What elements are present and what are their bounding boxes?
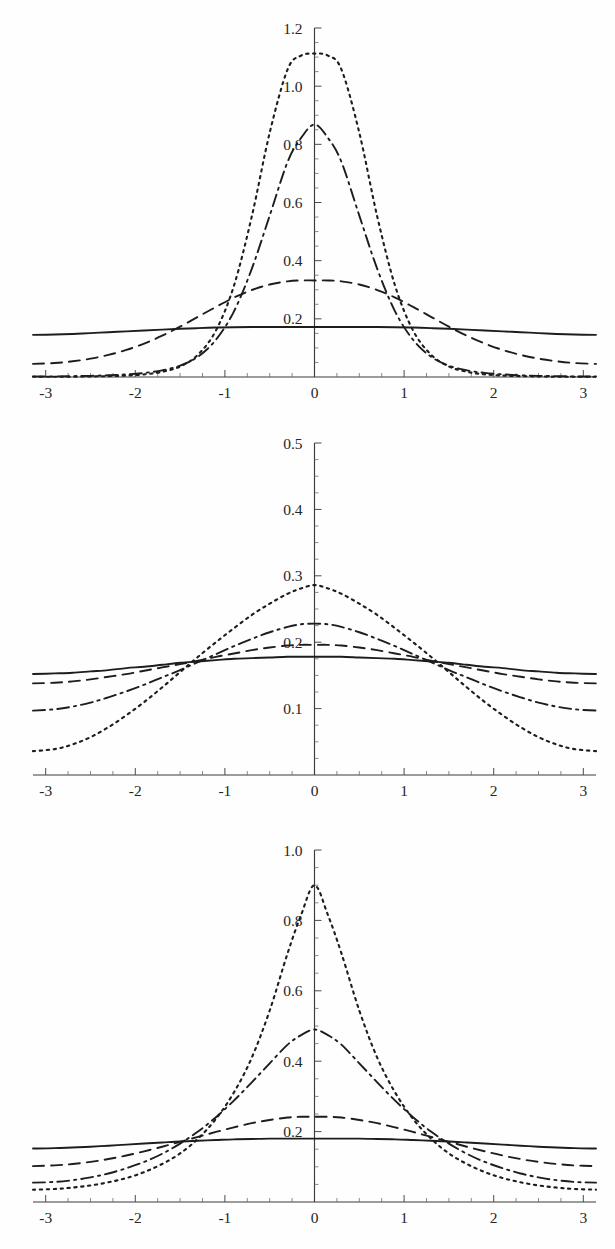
chart-svg-3: -3-2-101230.20.40.60.81.0	[0, 830, 615, 1249]
y-tick-label: 0.6	[283, 194, 303, 211]
figure-container: -3-2-101230.20.40.60.81.01.2 -3-2-101230…	[0, 0, 615, 1249]
x-tick-label: 1	[400, 384, 408, 401]
chart-svg-1: -3-2-101230.20.40.60.81.01.2	[0, 0, 615, 420]
x-tick-label: -2	[129, 384, 142, 401]
y-tick-label: 0.3	[283, 567, 303, 584]
chart-panel-3: -3-2-101230.20.40.60.81.0	[0, 830, 615, 1249]
x-tick-label: 2	[490, 1209, 498, 1226]
x-tick-label: 0	[311, 1209, 319, 1226]
x-tick-label: -2	[129, 782, 142, 799]
y-tick-label: 0.2	[283, 310, 302, 327]
y-tick-label: 0.4	[283, 252, 303, 269]
x-tick-label: -2	[129, 1209, 142, 1226]
x-tick-label: 1	[400, 1209, 408, 1226]
x-tick-label: 1	[400, 782, 408, 799]
x-tick-label: -1	[218, 384, 231, 401]
x-tick-label: -1	[218, 1209, 231, 1226]
y-tick-label: 0.4	[283, 501, 303, 518]
x-tick-label: -3	[39, 384, 52, 401]
chart-panel-2: -3-2-101230.10.20.30.40.5	[0, 420, 615, 830]
x-tick-label: -3	[39, 1209, 52, 1226]
x-tick-label: 2	[490, 782, 498, 799]
y-tick-label: 0.2	[283, 1123, 302, 1140]
x-tick-label: 3	[579, 782, 587, 799]
x-tick-label: 3	[579, 384, 587, 401]
y-tick-label: 0.1	[283, 700, 302, 717]
y-tick-label: 0.4	[283, 1053, 303, 1070]
y-tick-label: 0.2	[283, 634, 302, 651]
y-tick-label: 1.2	[283, 20, 302, 37]
x-tick-label: -3	[39, 782, 52, 799]
x-tick-label: 3	[579, 1209, 587, 1226]
chart-svg-2: -3-2-101230.10.20.30.40.5	[0, 420, 615, 830]
x-tick-label: 0	[311, 384, 319, 401]
y-tick-label: 0.6	[283, 982, 303, 999]
y-tick-label: 1.0	[283, 78, 303, 95]
x-tick-label: 2	[490, 384, 498, 401]
y-tick-label: 0.5	[283, 435, 303, 452]
y-tick-label: 1.0	[283, 842, 303, 859]
chart-panel-1: -3-2-101230.20.40.60.81.01.2	[0, 0, 615, 420]
x-tick-label: 0	[311, 782, 319, 799]
x-tick-label: -1	[218, 782, 231, 799]
y-tick-label: 0.8	[283, 912, 303, 929]
